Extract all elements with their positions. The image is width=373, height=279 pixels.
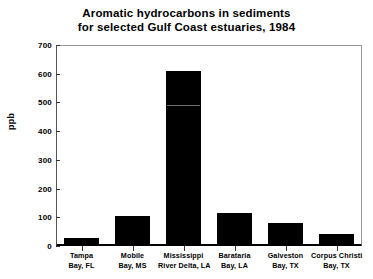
x-axis-tick-label: BaratariaBay, LA — [209, 251, 260, 270]
bars-container — [56, 45, 362, 246]
y-axis-tick-label: 600 — [26, 69, 52, 78]
y-axis-tick-label: 500 — [26, 98, 52, 107]
bar-chart-figure: Aromatic hydrocarbons in sediments for s… — [0, 0, 373, 279]
x-axis-tick-label-line: Bay, LA — [209, 261, 260, 271]
x-axis-tick-label-line: Bay, FL — [56, 261, 107, 271]
x-axis-tick-label-line: Corpus Christi — [311, 251, 362, 261]
y-axis-tick-label: 400 — [26, 127, 52, 136]
bar — [217, 213, 253, 246]
bar — [64, 238, 100, 246]
bar — [319, 234, 355, 246]
x-axis-tick-label-line: Barataria — [209, 251, 260, 261]
y-axis-tick-label: 200 — [26, 184, 52, 193]
bar — [268, 223, 304, 246]
x-axis-tick-label-line: Galveston — [260, 251, 311, 261]
x-axis-tick-label: TampaBay, FL — [56, 251, 107, 270]
y-axis-tick-label: 700 — [26, 41, 52, 50]
x-axis-tick-label-line: Tampa — [56, 251, 107, 261]
x-axis-tick-label: GalvestonBay, TX — [260, 251, 311, 270]
x-axis-tick-label: MississippiRiver Delta, LA — [158, 251, 209, 270]
x-axis-tick-label: MobileBay, MS — [107, 251, 158, 270]
x-axis-tick-label-line: Mobile — [107, 251, 158, 261]
y-axis-tick-label: 100 — [26, 213, 52, 222]
y-axis-tick-label: 300 — [26, 155, 52, 164]
x-axis-tick-label-line: Bay, TX — [311, 261, 362, 271]
y-axis-tick-label: 0 — [26, 242, 52, 251]
x-axis-tick-labels: TampaBay, FLMobileBay, MSMississippiRive… — [56, 251, 362, 275]
y-axis-tick-labels: 0100200300400500600700 — [22, 45, 52, 246]
x-axis-tick-label-line: Bay, TX — [260, 261, 311, 271]
chart-title-line-2: for selected Gulf Coast estuaries, 1984 — [0, 20, 373, 34]
x-axis-tick-label-line: River Delta, LA — [158, 261, 209, 271]
bar — [115, 216, 151, 246]
bar — [166, 71, 202, 246]
bar-scan-artifact — [167, 105, 201, 106]
chart-title: Aromatic hydrocarbons in sediments for s… — [0, 6, 373, 34]
x-axis-tick-label: Corpus ChristiBay, TX — [311, 251, 362, 270]
chart-title-line-1: Aromatic hydrocarbons in sediments — [0, 6, 373, 20]
x-axis-tick-label-line: Bay, MS — [107, 261, 158, 271]
x-axis-tick-label-line: Mississippi — [158, 251, 209, 261]
y-axis-title: ppb — [6, 113, 16, 130]
